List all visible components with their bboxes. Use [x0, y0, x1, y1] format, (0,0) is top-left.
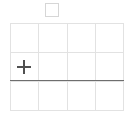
- grid-cell-r2c2[interactable]: [38, 52, 66, 81]
- row-divider-line: [10, 80, 124, 81]
- grid-cell-r1c4[interactable]: [95, 23, 123, 52]
- grid-cell-r3c4[interactable]: [95, 81, 123, 110]
- drag-handle-square[interactable]: [45, 3, 59, 17]
- grid-cell-r1c1[interactable]: [10, 23, 38, 52]
- grid-cell-r1c2[interactable]: [38, 23, 66, 52]
- plus-icon[interactable]: [17, 60, 31, 74]
- grid-cell-r3c3[interactable]: [67, 81, 95, 110]
- grid-cell-r3c1[interactable]: [10, 81, 38, 110]
- grid-cell-r3c2[interactable]: [38, 81, 66, 110]
- grid-cell-r2c3[interactable]: [67, 52, 95, 81]
- grid-cell-r1c3[interactable]: [67, 23, 95, 52]
- canvas: [0, 0, 131, 114]
- grid-cell-r2c4[interactable]: [95, 52, 123, 81]
